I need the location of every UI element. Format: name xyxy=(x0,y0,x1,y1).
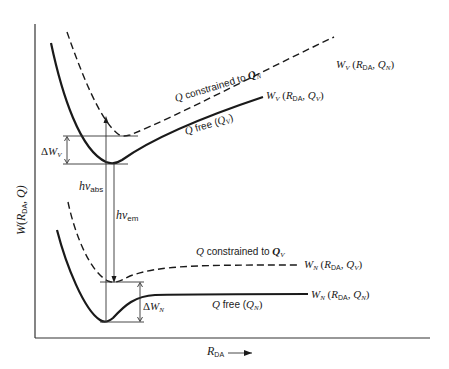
upper-solid-end-label: WV (RDA, QV) xyxy=(266,89,324,103)
lower-solid-end-label: WN (RDA, QN) xyxy=(311,288,370,302)
absorption-label: hνabs xyxy=(79,179,103,194)
upper-dashed-annotation: Q constrained to QN xyxy=(173,66,262,105)
delta-wn-label: ΔWN xyxy=(143,300,164,314)
delta-wv-label: ΔWV xyxy=(41,145,62,159)
lower-dashed-curve xyxy=(68,202,300,282)
upper-solid-annotation: Q free (QV) xyxy=(183,111,235,139)
lower-solid-annotation: Q free (QN) xyxy=(212,298,263,312)
emission-label: hνem xyxy=(116,208,139,223)
lower-dashed-annotation: Q constrained to QV xyxy=(196,245,285,259)
upper-solid-curve xyxy=(51,43,263,163)
y-axis-label: W(RDA, Q) xyxy=(14,185,28,235)
lower-solid-curve xyxy=(57,230,308,322)
upper-dashed-end-label: WV (RDA, QN) xyxy=(336,58,394,72)
energy-diagram: W(RDA, Q) RDA Q constrained to QN WV (RD… xyxy=(0,0,449,369)
x-axis-label: RDA xyxy=(206,344,224,358)
lower-dashed-end-label: WN (RDA, QV) xyxy=(304,258,362,272)
